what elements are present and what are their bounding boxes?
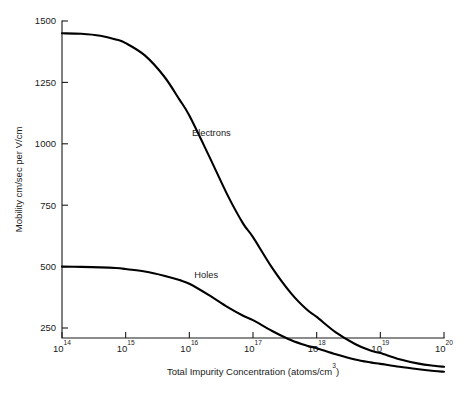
y-axis-title: Mobility cm/sec per V/cm (13, 127, 24, 233)
chart-canvas: 250500750100012501500 101410151016101710… (0, 0, 473, 393)
y-tick-label-250: 250 (40, 322, 56, 333)
y-tick-label-1250: 1250 (35, 77, 56, 88)
mobility-chart-figure: 250500750100012501500 101410151016101710… (0, 0, 473, 393)
y-tick-label-750: 750 (40, 200, 56, 211)
chart-background (0, 0, 473, 393)
y-tick-label-500: 500 (40, 261, 56, 272)
curve-label-holes: Holes (194, 270, 218, 280)
y-tick-label-1500: 1500 (35, 15, 56, 26)
y-tick-label-1000: 1000 (35, 138, 56, 149)
curve-label-electrons: Electrons (192, 128, 231, 138)
